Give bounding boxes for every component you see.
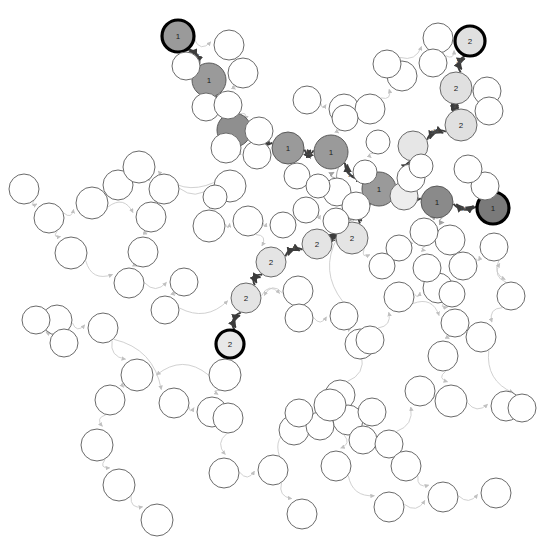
node-circle[interactable]: [285, 399, 313, 427]
node-circle[interactable]: [228, 58, 258, 88]
node-circle[interactable]: [366, 130, 390, 154]
graph-node[interactable]: [358, 398, 386, 426]
node-circle[interactable]: [128, 237, 158, 267]
node-circle[interactable]: [419, 49, 447, 77]
graph-node[interactable]: [508, 394, 536, 422]
node-circle[interactable]: [454, 155, 482, 183]
graph-node[interactable]: [34, 203, 64, 233]
node-circle[interactable]: [369, 253, 395, 279]
node-circle[interactable]: [272, 132, 304, 164]
node-circle[interactable]: [293, 197, 319, 223]
node-circle[interactable]: [293, 86, 321, 114]
node-circle[interactable]: [213, 403, 243, 433]
graph-node[interactable]: [419, 49, 447, 77]
node-circle[interactable]: [323, 208, 349, 234]
node-circle[interactable]: [480, 233, 508, 261]
node-circle[interactable]: [149, 174, 179, 204]
node-circle[interactable]: [441, 309, 469, 337]
graph-node[interactable]: [441, 309, 469, 337]
node-circle[interactable]: [203, 185, 227, 209]
node-circle[interactable]: [358, 398, 386, 426]
graph-node[interactable]: [285, 399, 313, 427]
node-circle[interactable]: [287, 499, 317, 529]
graph-node[interactable]: [293, 86, 321, 114]
graph-node[interactable]: [114, 268, 144, 298]
node-circle[interactable]: [349, 426, 377, 454]
node-circle[interactable]: [9, 174, 39, 204]
graph-node-labeled[interactable]: 2: [440, 72, 472, 104]
graph-node-labeled[interactable]: 1: [314, 135, 348, 169]
node-circle[interactable]: [475, 97, 503, 125]
graph-node-labeled[interactable]: 1: [162, 20, 194, 52]
graph-node[interactable]: [95, 385, 125, 415]
graph-node[interactable]: [391, 451, 421, 481]
graph-node[interactable]: [50, 329, 78, 357]
graph-node-labeled[interactable]: 2: [445, 109, 477, 141]
node-circle[interactable]: [405, 376, 435, 406]
node-circle[interactable]: [95, 385, 125, 415]
graph-node[interactable]: [245, 117, 273, 145]
node-circle[interactable]: [123, 151, 155, 183]
node-circle[interactable]: [170, 268, 198, 296]
node-circle[interactable]: [211, 133, 241, 163]
node-circle[interactable]: [258, 455, 288, 485]
node-circle[interactable]: [233, 206, 263, 236]
graph-node[interactable]: [209, 359, 241, 391]
graph-node[interactable]: [214, 91, 242, 119]
graph-node[interactable]: [81, 429, 113, 461]
graph-node-labeled[interactable]: 2: [231, 283, 261, 313]
graph-node-labeled[interactable]: 1: [272, 132, 304, 164]
graph-node[interactable]: [330, 302, 358, 330]
node-circle[interactable]: [373, 50, 401, 78]
node-circle[interactable]: [355, 94, 385, 124]
node-circle[interactable]: [209, 458, 239, 488]
graph-node[interactable]: [213, 403, 243, 433]
graph-node-labeled[interactable]: 2: [256, 247, 286, 277]
graph-node[interactable]: [209, 458, 239, 488]
graph-node[interactable]: [409, 154, 433, 178]
graph-node[interactable]: [454, 155, 482, 183]
node-circle[interactable]: [356, 326, 384, 354]
graph-node[interactable]: [88, 313, 118, 343]
graph-node[interactable]: [172, 52, 200, 80]
graph-node[interactable]: [270, 212, 296, 238]
node-circle[interactable]: [439, 281, 465, 307]
graph-node[interactable]: [287, 499, 317, 529]
graph-node[interactable]: [121, 359, 153, 391]
graph-node[interactable]: [55, 237, 87, 269]
node-circle[interactable]: [449, 252, 477, 280]
graph-node[interactable]: [283, 276, 313, 306]
node-circle[interactable]: [302, 229, 332, 259]
graph-node[interactable]: [475, 97, 503, 125]
graph-node[interactable]: [356, 326, 384, 354]
node-circle[interactable]: [81, 429, 113, 461]
node-circle[interactable]: [209, 359, 241, 391]
graph-node[interactable]: [410, 218, 438, 246]
node-circle[interactable]: [76, 187, 108, 219]
graph-node[interactable]: [123, 151, 155, 183]
graph-node[interactable]: [258, 455, 288, 485]
graph-node[interactable]: [233, 206, 263, 236]
node-circle[interactable]: [481, 478, 511, 508]
graph-node[interactable]: [151, 296, 179, 324]
node-circle[interactable]: [22, 306, 50, 334]
graph-node[interactable]: [159, 388, 189, 418]
graph-node-labeled[interactable]: 2: [302, 229, 332, 259]
graph-node-labeled[interactable]: 2: [216, 330, 244, 358]
node-circle[interactable]: [231, 283, 261, 313]
graph-node-labeled[interactable]: 1: [421, 186, 453, 218]
node-circle[interactable]: [508, 394, 536, 422]
graph-node[interactable]: [9, 174, 39, 204]
graph-node[interactable]: [435, 225, 465, 255]
node-circle[interactable]: [55, 237, 87, 269]
node-circle[interactable]: [50, 329, 78, 357]
graph-node[interactable]: [136, 202, 166, 232]
graph-node[interactable]: [466, 322, 496, 352]
node-circle[interactable]: [136, 202, 166, 232]
graph-node[interactable]: [497, 282, 525, 310]
node-circle[interactable]: [321, 451, 351, 481]
node-circle[interactable]: [214, 30, 244, 60]
graph-node[interactable]: [428, 482, 458, 512]
node-circle[interactable]: [121, 359, 153, 391]
node-circle[interactable]: [391, 451, 421, 481]
